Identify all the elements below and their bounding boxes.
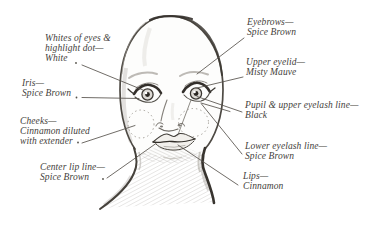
label-lower-eyelash: Lower eyelash line— Spice Brown xyxy=(245,141,327,161)
label-line: with extender xyxy=(20,136,90,146)
label-line: White xyxy=(45,53,111,63)
label-line: Black xyxy=(245,110,359,120)
neck-shading xyxy=(102,147,213,208)
label-lips: Lips— Cinnamon xyxy=(243,171,283,191)
highlight-dot xyxy=(145,92,148,95)
label-line: Upper eyelid— xyxy=(246,57,305,67)
label-line: Spice Brown xyxy=(245,151,327,161)
label-line: Lips— xyxy=(243,171,283,181)
label-line: Cheeks— xyxy=(20,116,90,126)
label-line: Whites of eyes & xyxy=(45,33,111,43)
label-line: Spice Brown xyxy=(247,27,296,37)
label-line: Cinnamon diluted xyxy=(20,126,90,136)
label-line: Cinnamon xyxy=(243,181,283,191)
label-whites-of-eyes: Whites of eyes & highlight dot— White xyxy=(45,33,111,63)
label-cheeks: Cheeks— Cinnamon diluted with extender xyxy=(20,116,90,146)
label-line: Spice Brown xyxy=(40,172,105,182)
label-line: Lower eyelash line— xyxy=(245,141,327,151)
label-pupil-upper-eyelash: Pupil & upper eyelash line— Black xyxy=(245,100,359,120)
highlight-dot xyxy=(193,91,196,94)
label-eyebrows: Eyebrows— Spice Brown xyxy=(247,17,296,37)
face-makeup-diagram: Whites of eyes & highlight dot— White Ir… xyxy=(0,0,380,228)
label-line: Center lip line— xyxy=(40,162,105,172)
label-line: Iris— xyxy=(22,78,71,88)
label-line: Eyebrows— xyxy=(247,17,296,27)
label-line: Pupil & upper eyelash line— xyxy=(245,100,359,110)
label-center-lip-line: Center lip line— Spice Brown xyxy=(40,162,105,182)
label-upper-eyelid: Upper eyelid— Misty Mauve xyxy=(246,57,305,77)
label-line: highlight dot— xyxy=(45,43,111,53)
label-line: Spice Brown xyxy=(22,88,71,98)
label-iris: Iris— Spice Brown xyxy=(22,78,71,98)
label-line: Misty Mauve xyxy=(246,67,305,77)
